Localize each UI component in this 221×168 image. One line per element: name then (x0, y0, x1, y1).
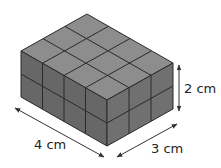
length-label: 4 cm (34, 137, 66, 152)
height-label: 2 cm (184, 81, 216, 96)
width-label: 3 cm (151, 141, 183, 156)
cuboid-diagram: 2 cm 4 cm 3 cm (0, 0, 221, 168)
